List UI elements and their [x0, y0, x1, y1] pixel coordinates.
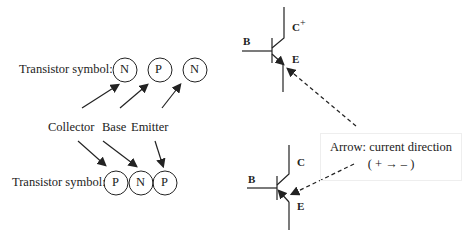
pnp-layer-p2: P [161, 175, 168, 190]
pnp-row-label: Transistor symbol: [12, 175, 106, 190]
collector-label: Collector [48, 120, 95, 135]
base-label: Base [102, 120, 126, 135]
npn-layer-n2: N [190, 62, 199, 77]
pnp-layer-n: N [136, 175, 145, 190]
npn-layer-p: P [155, 62, 162, 77]
pnp-collector-label: C [297, 156, 305, 168]
npn-transistor-symbol [242, 7, 284, 92]
emitter-label: Emitter [131, 120, 169, 135]
npn-row-label: Transistor symbol: [19, 62, 113, 77]
npn-layer-n1: N [120, 62, 129, 77]
npn-base-label: B [243, 35, 250, 47]
pnp-base-label: B [248, 173, 255, 185]
npn-pointer-arrows [82, 85, 180, 108]
note-line-2: ( + → – ) [321, 156, 461, 173]
pnp-transistor-symbol [247, 145, 289, 230]
current-direction-note: Arrow: current direction ( + → – ) [320, 133, 462, 181]
pnp-layer-p1: P [112, 175, 119, 190]
note-line-1: Arrow: current direction [321, 139, 461, 156]
pnp-emitter-label: E [297, 200, 304, 212]
npn-collector-label: C+ [292, 17, 306, 33]
npn-emitter-label: E [292, 53, 299, 65]
pnp-pointer-arrows [78, 141, 163, 166]
npn-collector-plus: + [300, 17, 306, 28]
